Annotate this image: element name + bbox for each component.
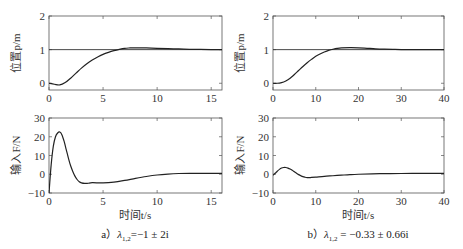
x-tick-label: 0	[270, 195, 276, 207]
y-tick-label: 30	[34, 112, 46, 124]
y-axis-label: 位置p/m	[9, 33, 22, 73]
y-tick-label: 1	[40, 44, 46, 56]
y-axis-label: 输入F/N	[233, 135, 246, 174]
y-tick-label: 0	[40, 77, 46, 89]
x-tick-label: 5	[100, 195, 106, 207]
y-axis-label: 位置p/m	[233, 33, 246, 73]
y-tick-label: 2	[264, 10, 270, 22]
panel-a-bottom: 051015−100102030输入F/N	[9, 112, 222, 207]
y-tick-label: 10	[34, 150, 46, 162]
x-tick-label: 20	[353, 195, 365, 207]
series-position	[273, 48, 444, 84]
x-tick-label: 10	[310, 195, 322, 207]
x-tick-label: 40	[439, 92, 451, 104]
y-axis-label: 输入F/N	[9, 135, 22, 174]
x-tick-label: 20	[353, 92, 365, 104]
caption-a-text: =−1 ± 2i	[131, 228, 169, 240]
caption-a: a）λ1,2=−1 ± 2i	[101, 228, 168, 243]
x-tick-label: 40	[439, 195, 451, 207]
x-tick-label: 30	[396, 195, 408, 207]
y-tick-label: 20	[34, 131, 46, 143]
x-tick-label: 30	[396, 92, 408, 104]
x-tick-label: 10	[152, 92, 164, 104]
x-tick-label: 5	[100, 92, 106, 104]
y-tick-label: −10	[252, 187, 270, 199]
y-tick-label: 0	[264, 77, 270, 89]
y-tick-label: 1	[264, 44, 270, 56]
x-tick-label: 0	[46, 195, 52, 207]
caption-b-prefix: b）	[307, 228, 324, 240]
caption-b: b）λ1,2 = −0.33 ± 0.66i	[307, 228, 408, 243]
y-tick-label: 10	[258, 150, 270, 162]
y-tick-label: 2	[40, 10, 46, 22]
x-tick-label: 0	[270, 92, 276, 104]
y-tick-label: 0	[264, 168, 270, 180]
axes-frame	[273, 16, 444, 90]
axes-frame	[273, 118, 444, 193]
x-tick-label: 10	[152, 195, 164, 207]
y-tick-label: 20	[258, 131, 270, 143]
y-tick-label: 0	[40, 168, 46, 180]
x-tick-label: 15	[206, 195, 218, 207]
x-tick-label: 10	[310, 92, 322, 104]
panel-b-top: 010203040012位置p/m	[233, 10, 450, 104]
series-position	[49, 48, 222, 85]
series-input	[49, 132, 222, 193]
axes-frame	[49, 118, 222, 193]
panel-a-top: 051015012位置p/m	[9, 10, 222, 104]
figure: 051015012位置p/m051015−100102030输入F/N01020…	[0, 0, 463, 249]
caption-b-text: = −0.33 ± 0.66i	[338, 228, 409, 240]
xlabel-b: 时间t/s	[342, 209, 374, 221]
panel-b-bottom: 010203040−100102030输入F/N	[233, 112, 450, 207]
axes-frame	[49, 16, 222, 90]
series-input	[273, 167, 444, 177]
y-tick-label: −10	[28, 187, 46, 199]
xlabel-a: 时间t/s	[119, 209, 151, 221]
y-tick-label: 30	[258, 112, 270, 124]
x-tick-label: 15	[206, 92, 218, 104]
caption-a-prefix: a）	[101, 228, 117, 240]
x-tick-label: 0	[46, 92, 52, 104]
